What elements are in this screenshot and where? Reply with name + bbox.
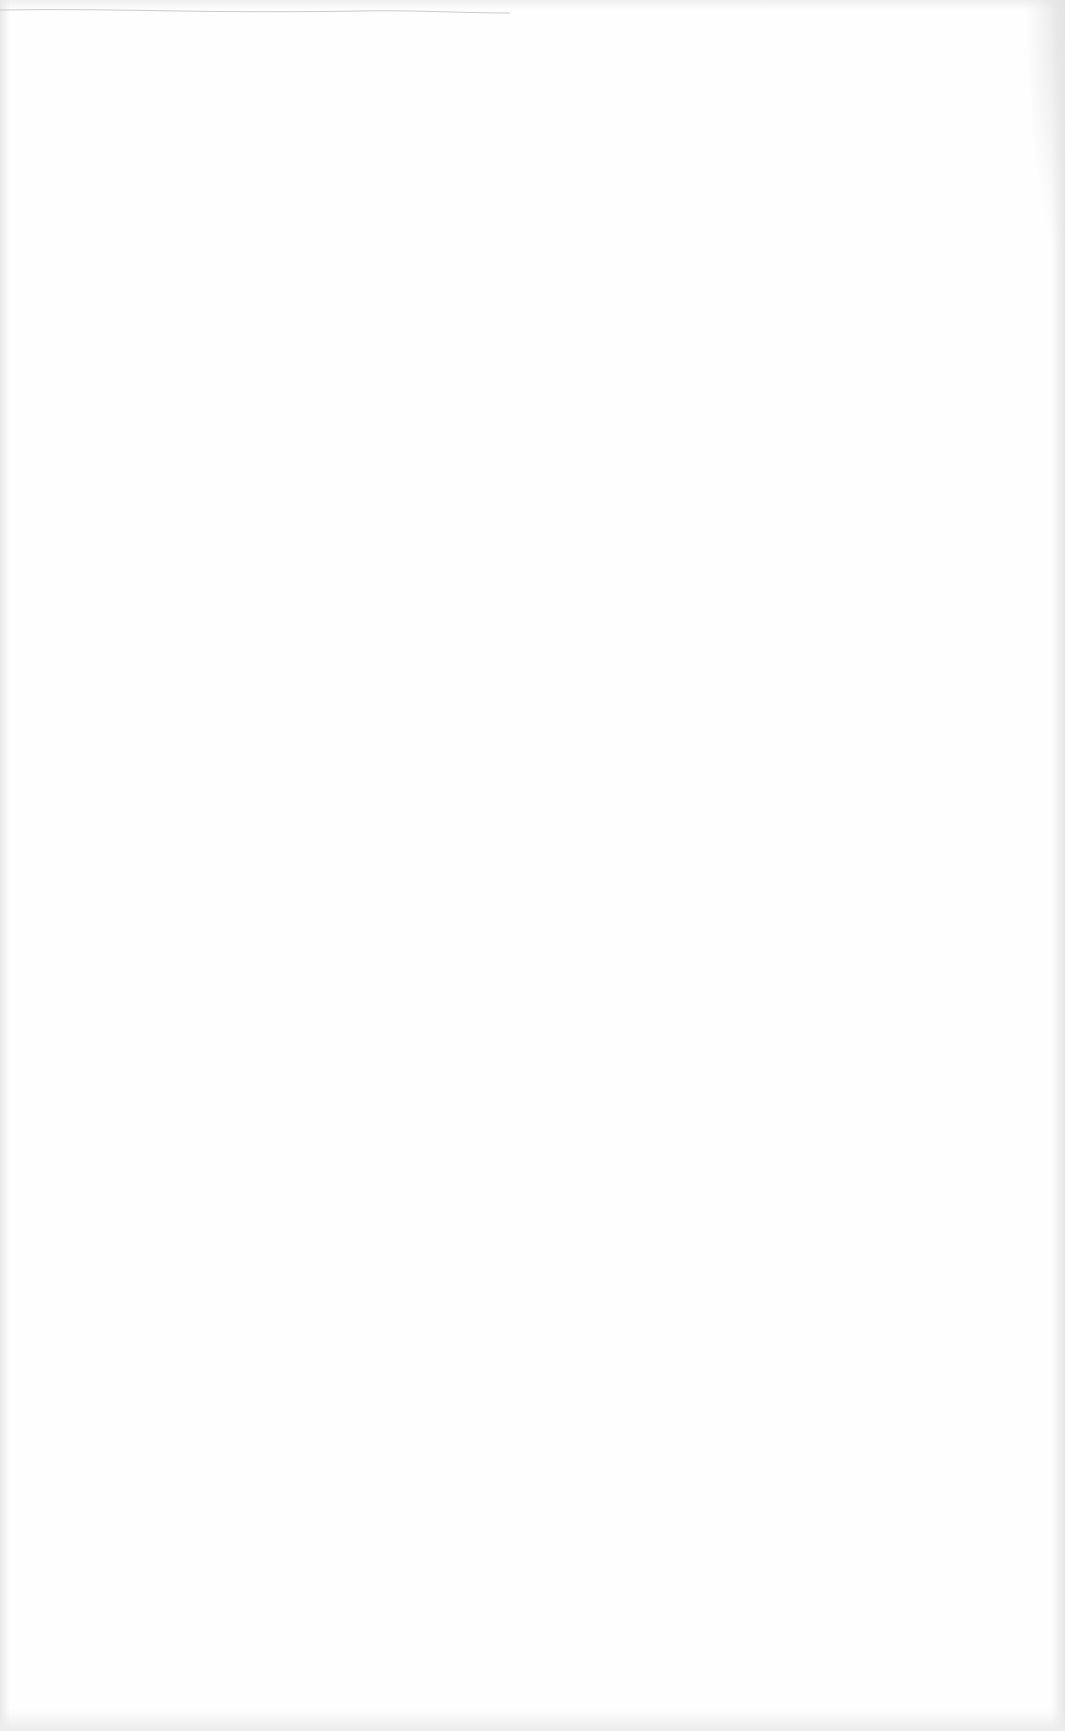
curled-corner bbox=[1025, 0, 1065, 260]
faint-top-rule-line bbox=[0, 6, 520, 18]
blank-paper-page bbox=[0, 0, 1065, 1731]
scan-edge-bottom bbox=[0, 1709, 1065, 1731]
scan-edge-left bbox=[0, 0, 10, 1731]
